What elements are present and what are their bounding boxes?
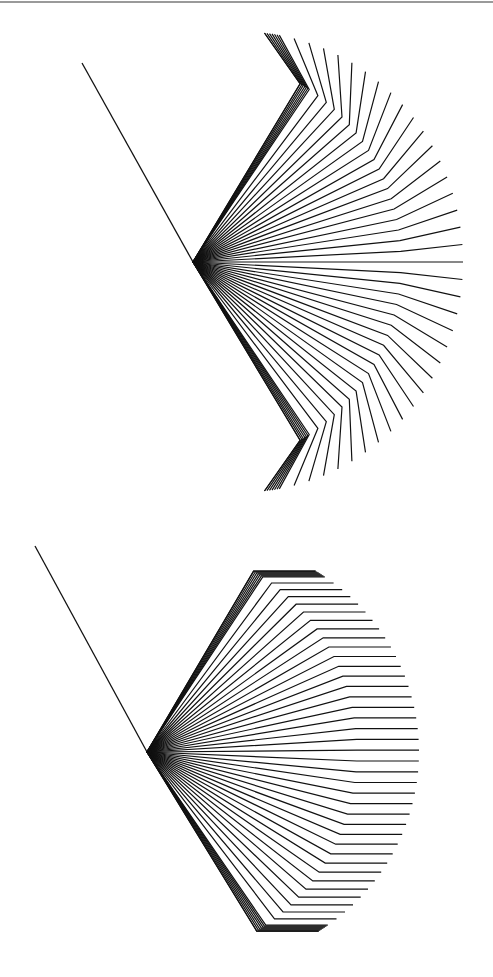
ray-line	[193, 262, 440, 363]
incident-line-bottom	[35, 546, 147, 752]
ray-line	[193, 105, 403, 262]
ray-line-edge	[147, 573, 319, 752]
fan-diagram-top	[82, 33, 463, 491]
ray-line-edge	[147, 574, 320, 752]
ray-line-edge	[193, 262, 303, 490]
ray-line	[193, 161, 440, 262]
ray-line	[147, 590, 342, 752]
ray-bundle-bottom	[147, 571, 419, 931]
ray-line	[147, 729, 418, 752]
ray-bundle-top	[193, 33, 463, 491]
ray-line	[147, 604, 358, 752]
ray-line	[193, 55, 342, 262]
fan-diagram-bottom	[35, 546, 419, 931]
ray-line	[147, 750, 419, 752]
incident-line-top	[82, 63, 193, 262]
ray-line-edge	[147, 572, 317, 752]
ray-line	[147, 752, 353, 905]
ray-line	[193, 262, 342, 469]
figure-canvas	[0, 0, 493, 977]
ray-line-edge	[147, 752, 323, 928]
ray-line	[193, 262, 403, 419]
ray-line	[147, 752, 345, 912]
ray-line-edge	[193, 34, 303, 262]
